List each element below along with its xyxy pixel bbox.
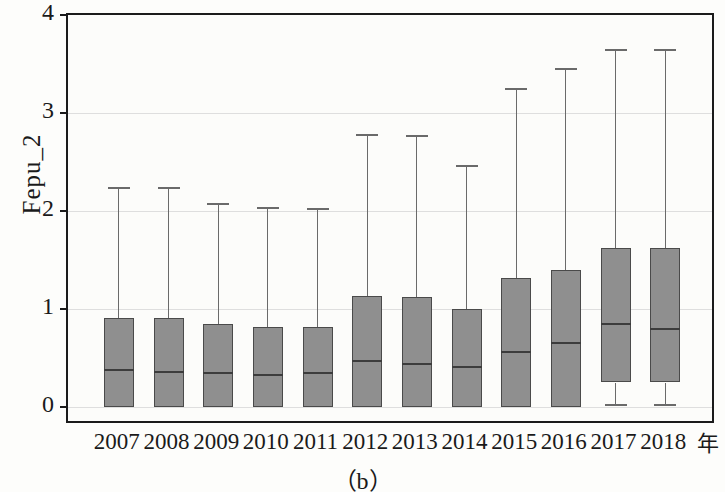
whisker-upper: [516, 88, 517, 278]
y-axis-tick-label: 4: [28, 0, 54, 24]
y-axis-tick-mark: [60, 406, 68, 408]
box: [501, 278, 531, 407]
median-line: [154, 371, 184, 373]
median-line: [352, 360, 382, 362]
whisker-cap-upper: [505, 88, 527, 90]
whisker-lower: [615, 383, 616, 405]
y-axis-tick-mark: [60, 14, 68, 16]
whisker-upper: [615, 49, 616, 248]
whisker-cap-upper: [605, 49, 627, 51]
whisker-cap-upper: [307, 208, 329, 210]
gridline: [68, 407, 712, 408]
median-line: [551, 342, 581, 344]
median-line: [104, 369, 134, 371]
y-axis-tick-labels: 01234: [26, 0, 54, 492]
whisker-cap-upper: [555, 68, 577, 70]
box: [303, 327, 333, 407]
whisker-upper: [118, 187, 119, 318]
median-line: [650, 328, 680, 330]
median-line: [253, 374, 283, 376]
median-line: [203, 372, 233, 374]
whisker-cap-upper: [456, 165, 478, 167]
whisker-cap-upper: [257, 207, 279, 209]
whisker-upper: [466, 165, 467, 309]
box: [601, 248, 631, 382]
box: [551, 270, 581, 407]
box: [352, 296, 382, 407]
whisker-cap-upper: [207, 203, 229, 205]
whisker-lower: [665, 383, 666, 405]
figure-caption: （b）: [0, 461, 725, 492]
whisker-cap-upper: [406, 135, 428, 137]
y-axis-tick-mark: [60, 308, 68, 310]
box: [104, 318, 134, 407]
y-axis-tick-label: 0: [28, 392, 54, 416]
y-axis-tick-label: 2: [28, 196, 54, 220]
x-axis-unit-label: 年: [697, 430, 719, 458]
whisker-cap-lower: [654, 404, 676, 406]
whisker-cap-upper: [108, 187, 130, 189]
whisker-upper: [218, 203, 219, 324]
y-axis-tick-mark: [60, 112, 68, 114]
box: [452, 309, 482, 407]
whisker-upper: [168, 187, 169, 317]
box: [203, 324, 233, 407]
plot-area: [66, 13, 714, 423]
whisker-upper: [416, 135, 417, 298]
whisker-upper: [367, 134, 368, 297]
median-line: [402, 363, 432, 365]
whisker-cap-upper: [158, 187, 180, 189]
median-line: [303, 372, 333, 374]
whisker-upper: [317, 208, 318, 327]
box: [253, 327, 283, 407]
median-line: [601, 323, 631, 325]
whisker-cap-lower: [605, 404, 627, 406]
boxplot-figure: Fepu_2 01234 200720082009201020112012201…: [0, 0, 725, 492]
y-axis-tick-mark: [60, 210, 68, 212]
y-axis-tick-label: 1: [28, 294, 54, 318]
y-axis-tick-label: 3: [28, 98, 54, 122]
x-axis-tick-labels: 2007200820092010201120122013201420152016…: [0, 428, 725, 462]
box: [154, 318, 184, 407]
whisker-upper: [565, 68, 566, 270]
whisker-cap-upper: [356, 134, 378, 136]
median-line: [452, 366, 482, 368]
box: [650, 248, 680, 382]
whisker-upper: [267, 207, 268, 327]
whisker-upper: [665, 49, 666, 248]
x-axis-tick-label: 2018: [633, 428, 693, 456]
box: [402, 297, 432, 407]
median-line: [501, 351, 531, 353]
whisker-cap-upper: [654, 49, 676, 51]
